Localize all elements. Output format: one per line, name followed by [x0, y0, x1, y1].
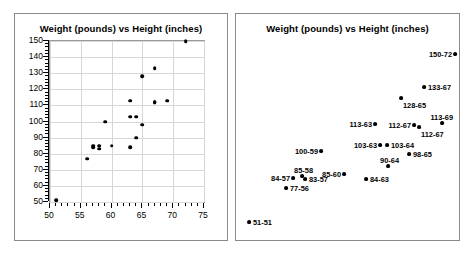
data-point-label: 150-72 [429, 50, 452, 59]
gridline-horizontal [50, 138, 204, 139]
y-axis-tick-minor [45, 56, 48, 57]
y-axis-tick-minor [45, 178, 48, 179]
x-axis-tick-minor [178, 203, 179, 206]
data-point-label: 77-56 [290, 184, 309, 193]
data-point [104, 120, 108, 124]
x-axis-tick-minor [166, 203, 167, 206]
y-axis-tick-minor [45, 69, 48, 70]
data-point [97, 147, 101, 151]
data-point [134, 115, 138, 119]
y-axis-tick-minor [45, 92, 48, 93]
y-axis-tick-minor [45, 95, 48, 96]
y-axis-tick-minor [45, 104, 48, 105]
y-axis-tick-minor [45, 82, 48, 83]
data-point-label: 133-67 [428, 83, 451, 92]
data-point [85, 157, 89, 161]
gridline-horizontal [50, 41, 204, 42]
y-axis-tick-minor [45, 108, 48, 109]
data-point [378, 143, 382, 147]
data-point-label: 51-51 [253, 218, 272, 227]
x-axis-tick-minor [104, 203, 105, 206]
data-point-label: 98-65 [413, 150, 432, 159]
gridline-horizontal [50, 154, 204, 155]
x-axis-tick-minor [49, 203, 50, 206]
data-point [407, 152, 411, 156]
data-point [128, 115, 132, 119]
gridline-vertical [173, 41, 174, 202]
y-axis-tick-minor [45, 156, 48, 157]
data-point [134, 136, 138, 140]
y-axis-tick-minor [45, 172, 48, 173]
data-point [141, 123, 145, 127]
y-axis-tick-minor [45, 101, 48, 102]
y-axis-tick-minor [45, 185, 48, 186]
y-axis-tick-minor [45, 133, 48, 134]
data-point-label: 112-67 [388, 121, 411, 130]
y-axis-tick-minor [45, 111, 48, 112]
data-point [141, 75, 145, 79]
y-axis-tick-minor [45, 195, 48, 196]
data-point [417, 125, 421, 129]
x-axis-tick-label: 55 [75, 210, 84, 220]
y-axis-tick-minor [45, 43, 48, 44]
gridline-vertical [204, 41, 205, 202]
y-axis-tick-minor [45, 53, 48, 54]
x-axis-tick-minor [55, 203, 56, 206]
y-axis-tick-minor [45, 162, 48, 163]
data-point [91, 144, 95, 148]
x-axis-tick-minor [172, 203, 173, 206]
figure-root: Weight (pounds) vs Height (inches) 50607… [0, 0, 468, 255]
gridline-horizontal [50, 73, 204, 74]
data-point [412, 123, 416, 127]
data-point [247, 220, 251, 224]
gridline-vertical [50, 41, 51, 202]
data-point [284, 186, 288, 190]
scatter-plot-area [49, 40, 205, 203]
y-axis-tick-minor [45, 201, 48, 202]
y-axis-tick-minor [45, 117, 48, 118]
gridline-horizontal [50, 202, 204, 203]
data-point [422, 85, 426, 89]
right-chart-panel: Weight (pounds) vs Height (inches) 51-51… [235, 13, 460, 241]
labeled-data-points: 51-5177-5684-5785-5883-57100-5985-6084-6… [237, 15, 458, 239]
data-point [342, 172, 346, 176]
y-axis-tick-minor [45, 130, 48, 131]
y-axis-tick-minor [45, 191, 48, 192]
x-axis-tick-minor [117, 203, 118, 206]
x-axis-tick-minor [98, 203, 99, 206]
x-axis-tick-minor [61, 203, 62, 206]
y-axis-tick-minor [45, 114, 48, 115]
left-chart-title: Weight (pounds) vs Height (inches) [15, 23, 227, 34]
x-axis-tick-minor [92, 203, 93, 206]
x-axis-tick-minor [160, 203, 161, 206]
data-point [319, 149, 323, 153]
y-axis-tick-label: 110 [29, 99, 43, 109]
x-axis-tick-label: 65 [137, 210, 146, 220]
data-point-label: 90-64 [380, 156, 399, 165]
left-chart-panel: Weight (pounds) vs Height (inches) 50607… [14, 13, 228, 241]
y-axis-tick-label: 80 [34, 148, 43, 158]
data-point-label: 85-60 [322, 170, 341, 179]
x-axis-tick-label: 70 [167, 210, 176, 220]
x-axis-tick-minor [67, 203, 68, 206]
data-point-label: 103-64 [391, 141, 414, 150]
data-point [54, 199, 58, 203]
gridline-horizontal [50, 89, 204, 90]
y-axis-tick-minor [45, 153, 48, 154]
data-point [110, 144, 114, 148]
y-axis-tick-minor [45, 137, 48, 138]
y-axis-tick-label: 60 [34, 180, 43, 190]
y-axis-tick-minor [45, 79, 48, 80]
data-point-label: 113-63 [349, 120, 372, 129]
gridline-horizontal [50, 122, 204, 123]
data-point [453, 52, 457, 56]
data-point [153, 67, 157, 71]
gridline-vertical [112, 41, 113, 202]
gridline-vertical [142, 41, 143, 202]
data-point [291, 176, 295, 180]
y-axis-tick-label: 150 [29, 35, 43, 45]
data-point-label: 103-63 [354, 141, 377, 150]
y-axis-tick-label: 100 [29, 116, 43, 126]
x-axis-tick-minor [86, 203, 87, 206]
x-axis-tick-label: 75 [198, 210, 207, 220]
